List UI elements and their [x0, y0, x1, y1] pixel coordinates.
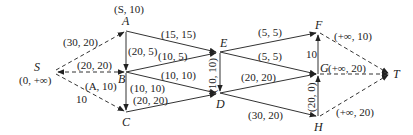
label-SC-mark: (A, 10) — [85, 80, 117, 93]
label-DH: (30, 20) — [248, 109, 283, 122]
label-DG: (20, 20) — [241, 71, 276, 84]
label-SB: (20, 20) — [77, 59, 112, 72]
label-AE: (15, 15) — [161, 28, 196, 41]
node-B: B — [118, 72, 126, 86]
label-EF: (5, 5) — [258, 26, 282, 39]
flow-network-diagram: S (0, +∞) A (S, 10) B C E D F G (+∞, 20)… — [0, 0, 413, 135]
node-S-mark: (0, +∞) — [19, 74, 52, 87]
label-ED: (10, 10) — [206, 58, 219, 93]
label-FT: (+∞, 10) — [334, 30, 372, 43]
label-SA: (30, 20) — [63, 36, 98, 49]
label-BE: (10, 5) — [158, 50, 188, 63]
node-E: E — [219, 36, 228, 50]
node-A-mark: (S, 10) — [114, 3, 144, 16]
node-G-mark: (+∞, 20) — [328, 62, 366, 75]
label-BD: (10, 10) — [161, 69, 196, 82]
label-HT: (+∞, 20) — [336, 106, 374, 119]
label-AB: (20, 5) — [128, 45, 158, 58]
node-T: T — [393, 67, 401, 81]
node-C: C — [122, 115, 131, 129]
node-D: D — [215, 97, 225, 111]
node-F: F — [314, 18, 323, 32]
label-SC-cap: 10 — [76, 93, 88, 105]
node-H: H — [313, 120, 324, 134]
label-EG: (5, 5) — [258, 50, 282, 63]
label-HG: (20, 0) — [305, 82, 318, 112]
node-A: A — [121, 14, 130, 28]
node-S: S — [34, 60, 40, 74]
label-CD: (20, 20) — [133, 94, 168, 107]
label-GF: 10 — [306, 48, 318, 60]
